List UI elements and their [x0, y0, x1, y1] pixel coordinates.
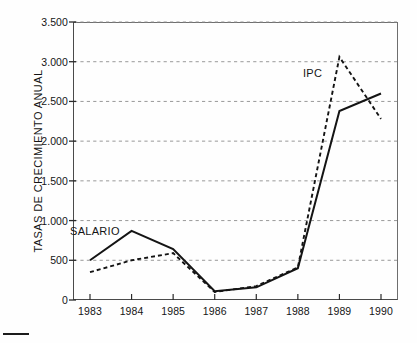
scan-artifact-line [3, 333, 29, 335]
y-tick-label: 0 [28, 294, 68, 306]
y-tick-label: 3.500 [28, 16, 68, 28]
series-label-salario: SALARIO [70, 225, 120, 237]
x-tick-label: 1990 [358, 305, 404, 317]
series-line-ipc [90, 57, 381, 292]
data-series-group [90, 57, 381, 292]
series-label-ipc: IPC [303, 67, 322, 79]
y-axis-title: TASAS DE CRECIMIENTO ANUAL [32, 61, 44, 261]
gridlines-group [74, 22, 397, 260]
x-tick-label: 1983 [67, 305, 113, 317]
y-axis-tick-labels: 05001.0001.5002.0002.5003.0003.500 [22, 0, 68, 343]
x-tick-label: 1989 [316, 305, 362, 317]
series-line-salario [90, 93, 381, 291]
x-tick-label: 1986 [192, 305, 238, 317]
x-tick-label: 1987 [233, 305, 279, 317]
x-tick-label: 1988 [275, 305, 321, 317]
x-tick-label: 1985 [150, 305, 196, 317]
x-tick-marks-group [90, 294, 381, 300]
x-tick-label: 1984 [109, 305, 155, 317]
chart-figure: 05001.0001.5002.0002.5003.0003.500 19831… [0, 0, 417, 343]
y-tick-marks-group [69, 22, 76, 300]
